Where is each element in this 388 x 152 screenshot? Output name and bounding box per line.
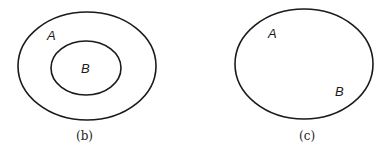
diagram-c: A B (c) [235, 9, 373, 143]
venn-diagrams: A B (b) A B (c) [0, 0, 388, 152]
caption-c: (c) [299, 129, 315, 143]
set-b-label: B [81, 61, 90, 76]
set-a-label: A [267, 26, 277, 41]
set-b-label: B [335, 84, 344, 99]
set-a-label: A [46, 28, 56, 43]
set-ab-ellipse [235, 9, 373, 119]
caption-b: (b) [76, 129, 93, 143]
diagram-b: A B (b) [18, 12, 156, 143]
